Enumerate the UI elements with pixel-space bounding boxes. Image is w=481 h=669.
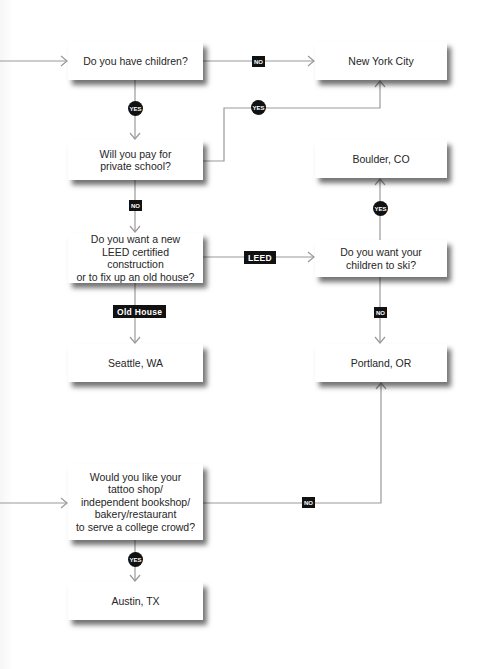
node-seattle-wa: Seattle, WA	[68, 344, 203, 382]
node-private-school-question: Will you pay for private school?	[68, 140, 203, 180]
node-ski-question: Do you want your children to ski?	[315, 240, 447, 277]
node-college-crowd-question: Would you like your tattoo shop/ indepen…	[68, 464, 203, 540]
edge-label-old-house: Old House	[113, 305, 166, 318]
edge-label-yes: YES	[128, 552, 143, 567]
node-portland-or: Portland, OR	[315, 344, 447, 382]
connector-layer	[0, 0, 481, 669]
node-boulder-co: Boulder, CO	[315, 140, 447, 178]
edge-label-no: NO	[129, 200, 142, 211]
connector-college-portland	[203, 383, 381, 503]
node-austin-tx: Austin, TX	[68, 582, 203, 620]
node-new-york-city: New York City	[315, 42, 447, 80]
node-children-question: Do you have children?	[68, 42, 203, 80]
edge-label-no: NO	[374, 307, 387, 318]
edge-label-yes: YES	[373, 201, 388, 216]
edge-label-no: NO	[252, 56, 265, 67]
edge-label-yes: YES	[251, 100, 266, 115]
edge-label-leed: LEED	[244, 251, 276, 264]
edge-label-yes: YES	[128, 101, 143, 116]
node-leed-question: Do you want a new LEED certified constru…	[68, 233, 203, 283]
edge-label-no: NO	[302, 497, 315, 508]
